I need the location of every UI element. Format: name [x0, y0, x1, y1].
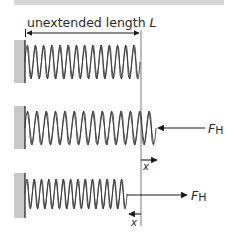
force-label-bottom: FH [191, 188, 206, 204]
force-label-middle: FH [208, 121, 223, 137]
wall-middle [14, 106, 25, 149]
displacement-label-bottom: x [130, 217, 137, 228]
header-bar [14, 0, 224, 5]
spring-bottom: FH x [14, 173, 206, 228]
wall-bottom [14, 173, 25, 218]
spring-unextended [14, 40, 140, 83]
spring-coil-bottom [25, 179, 127, 209]
spring-middle: FH x [14, 106, 223, 172]
dimension-label: unextended length L [27, 15, 157, 30]
spring-coil-top [25, 45, 140, 79]
spring-coil-middle [25, 111, 156, 145]
spring-diagram: unextended length L FH x FH x [0, 0, 236, 233]
displacement-label-middle: x [142, 161, 149, 172]
wall-top [14, 40, 25, 83]
